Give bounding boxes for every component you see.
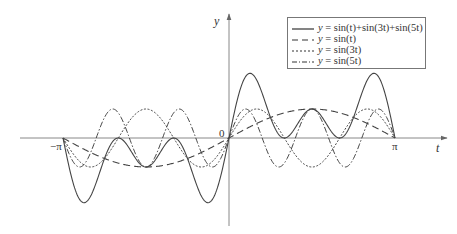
legend-item-sum: y = sin(t)+sin(3t)+sin(5t) <box>288 23 425 33</box>
legend-label: = sin(5t) <box>323 55 362 66</box>
legend-item-sin-3t: y = sin(3t) <box>288 45 425 55</box>
x-tick-pi: π <box>392 141 398 152</box>
legend-label: = sin(t) <box>323 33 356 44</box>
origin-label: 0 <box>219 128 225 139</box>
legend-item-sin-t: y = sin(t) <box>288 34 425 44</box>
x-axis-label: t <box>436 142 439 154</box>
dotted-line-swatch-icon <box>292 49 314 53</box>
dashdot-line-swatch-icon <box>292 60 314 64</box>
dashed-line-swatch-icon <box>292 38 314 42</box>
legend-label: = sin(3t) <box>323 44 362 55</box>
legend-item-sin-5t: y = sin(5t) <box>288 56 425 66</box>
solid-line-swatch-icon <box>292 27 314 31</box>
y-axis-label: y <box>214 15 219 27</box>
legend: y = sin(t)+sin(3t)+sin(5t) y = sin(t) y … <box>287 17 426 69</box>
legend-label: = sin(t)+sin(3t)+sin(5t) <box>323 22 423 33</box>
x-tick-neg-pi: −π <box>50 141 62 152</box>
